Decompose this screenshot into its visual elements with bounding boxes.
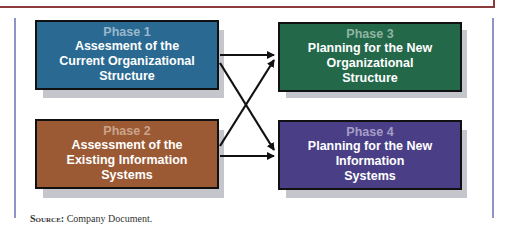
arrows — [0, 0, 507, 241]
source-label: Source: — [30, 213, 64, 224]
arrow-2-to-3 — [220, 60, 274, 146]
source-text: Company Document. — [64, 213, 152, 224]
arrow-1-to-4 — [220, 63, 274, 150]
source-caption: Source: Company Document. — [30, 213, 152, 224]
